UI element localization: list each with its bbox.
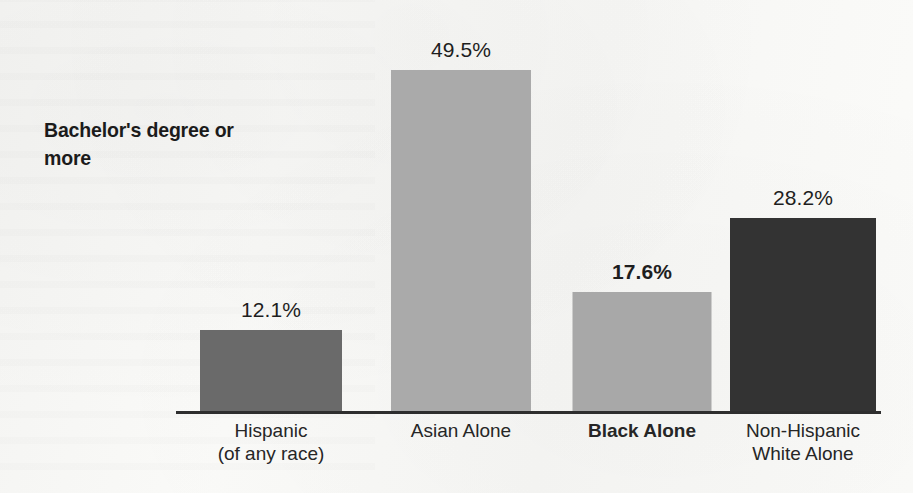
bar xyxy=(200,330,342,414)
bar-group: 28.2% xyxy=(725,18,881,414)
bar xyxy=(573,292,712,414)
bar-chart-figure: Bachelor's degree or more 12.1%49.5%17.6… xyxy=(0,0,913,493)
bar-value-label: 12.1% xyxy=(241,298,301,322)
bar-value-label: 17.6% xyxy=(612,260,672,284)
x-axis-category-label: Asian Alone xyxy=(366,419,556,442)
bar xyxy=(730,218,876,414)
bar-value-label: 49.5% xyxy=(431,38,491,62)
bar-group: 49.5% xyxy=(366,18,556,414)
x-axis-category-label: Black Alone xyxy=(552,419,732,442)
bar-value-label: 28.2% xyxy=(773,186,833,210)
bar-group: 17.6% xyxy=(552,18,732,414)
x-axis-category-label: Non-Hispanic White Alone xyxy=(725,419,881,465)
plot-area: 12.1%49.5%17.6%28.2% xyxy=(176,18,881,414)
bar-group: 12.1% xyxy=(176,18,366,414)
x-axis-baseline xyxy=(176,411,881,414)
bar xyxy=(391,70,531,414)
x-axis-category-label: Hispanic (of any race) xyxy=(176,419,366,465)
